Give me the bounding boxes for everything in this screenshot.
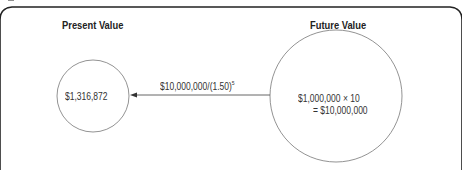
future-value-title: Future Value [310,19,366,31]
arrow-label-exponent: 5 [232,80,235,86]
arrow-label-base: $10,000,000/(1.50) [160,81,232,92]
present-value-title: Present Value [62,19,123,31]
future-value-line2: = $10,000,000 [313,105,368,116]
arrow-label: $10,000,000/(1.50)5 [160,80,235,92]
present-value-amount: $1,316,872 [65,91,108,102]
future-value-line1: $1,000,000 × 10 [298,93,360,104]
arrowhead-icon [130,93,137,98]
